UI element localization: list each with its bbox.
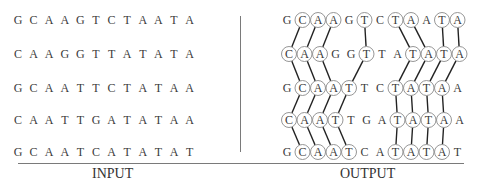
output-nucleotide: T [392,145,400,159]
output-nucleotide: A [407,145,416,159]
output-nucleotide: A [329,13,338,27]
alignment-link [292,95,300,113]
output-nucleotide: T [378,47,386,61]
output-nucleotide: T [332,113,340,127]
alignment-links: GCAAGTCTAATACAAGGTTATATAGCAATTCTATAACAAT… [0,0,478,181]
alignment-link [411,127,412,144]
output-nucleotide: T [440,47,448,61]
output-nucleotide: T [425,113,433,127]
output-nucleotide: A [455,47,464,61]
output-nucleotide: A [424,47,433,61]
output-nucleotide: C [285,113,293,127]
alignment-link [292,27,300,47]
output-nucleotide: T [423,81,431,95]
output-nucleotide: A [314,81,323,95]
output-nucleotide: A [409,113,418,127]
output-nucleotide: T [361,81,369,95]
output-nucleotide: T [438,13,446,27]
output-nucleotide: T [423,145,431,159]
output-caption: OUTPUT [340,166,395,181]
alignment-link [292,127,300,145]
alignment-link [442,127,443,144]
output-nucleotide: T [361,13,369,27]
output-nucleotide: A [316,47,325,61]
output-nucleotide: A [438,145,447,159]
output-nucleotide: A [453,81,462,95]
output-nucleotide: G [345,13,354,27]
output-nucleotide: G [283,81,292,95]
output-nucleotide: A [440,113,449,127]
output-nucleotide: C [298,81,306,95]
output-nucleotide: C [360,145,368,159]
output-nucleotide: A [407,81,416,95]
alignment-link [307,27,315,47]
output-nucleotide: C [285,47,293,61]
output-nucleotide: A [314,13,323,27]
alignment-link [442,27,443,46]
output-nucleotide: G [283,145,292,159]
output-nucleotide: A [453,13,462,27]
output-nucleotide: A [376,145,385,159]
output-nucleotide: A [300,113,309,127]
alignment-link [458,27,459,46]
output-nucleotide: A [455,113,464,127]
alignment-link [352,61,363,82]
alignment-link [445,61,456,82]
output-nucleotide: C [376,81,384,95]
alignment-link [399,61,410,82]
output-nucleotide: G [331,47,340,61]
alignment-link [427,95,428,112]
output-nucleotide: C [376,13,384,27]
alignment-link [427,127,428,144]
output-nucleotide: G [362,113,371,127]
alignment-link [307,61,315,81]
alignment-link [338,127,346,145]
output-nucleotide: C [298,145,306,159]
output-nucleotide: G [347,47,356,61]
output-nucleotide: G [283,13,292,27]
alignment-link [365,27,366,46]
output-nucleotide: T [454,145,462,159]
output-nucleotide: A [422,13,431,27]
output-nucleotide: A [378,113,387,127]
alignment-link [323,95,331,113]
output-nucleotide: T [345,145,353,159]
output-nucleotide: T [392,81,400,95]
alignment-link [414,61,425,82]
output-nucleotide: T [392,13,400,27]
alignment-link [338,95,346,113]
output-nucleotide: T [409,47,417,61]
output-nucleotide: A [316,113,325,127]
alignment-link [292,61,300,81]
output-nucleotide: A [314,145,323,159]
output-nucleotide: A [300,47,309,61]
output-nucleotide: T [394,113,402,127]
output-nucleotide: A [329,81,338,95]
output-nucleotide: T [363,47,371,61]
alignment-link [323,61,331,81]
alignment-link [396,95,397,112]
alignment-link [442,95,443,112]
alignment-link [323,127,331,145]
output-nucleotide: A [393,47,402,61]
output-nucleotide: A [438,81,447,95]
alignment-link [414,27,425,48]
output-nucleotide: T [345,81,353,95]
output-nucleotide: C [298,13,306,27]
output-nucleotide: T [347,113,355,127]
alignment-link [323,27,331,47]
alignment-link [411,95,412,112]
alignment-link [430,61,441,82]
output-nucleotide: A [407,13,416,27]
baseline-rule [18,163,464,164]
alignment-link [307,95,315,113]
alignment-link [399,27,410,48]
alignment-link [307,127,315,145]
alignment-link [396,127,397,144]
output-nucleotide: A [329,145,338,159]
input-caption: INPUT [92,166,133,181]
